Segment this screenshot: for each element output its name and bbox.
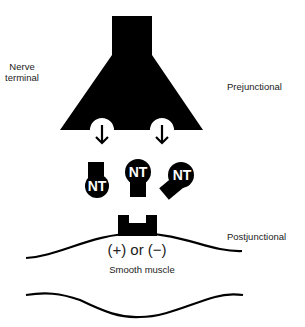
nerve-terminal	[60, 16, 203, 130]
nt-label: NT	[88, 178, 107, 194]
postjunctional-label: Postjunctional	[227, 231, 286, 242]
smooth-muscle-label: Smooth muscle	[109, 264, 174, 275]
smooth-muscle-membrane-lower	[26, 293, 243, 317]
release-arrow-right-icon	[156, 125, 168, 143]
release-arrow-left-icon	[96, 125, 108, 143]
effect-label: (+) or (−)	[107, 241, 166, 258]
nerve-terminal-label: Nerve	[9, 61, 34, 72]
neurotransmitter-1: NT	[85, 162, 109, 198]
neurotransmitter-2: NT	[125, 159, 151, 197]
nt-label: NT	[129, 164, 148, 180]
neurotransmission-diagram: NT NT NT Nerve terminal Prejunctional Po…	[0, 0, 305, 327]
nerve-terminal-label-line2: terminal	[5, 72, 39, 83]
neurotransmitter-3: NT	[159, 162, 194, 200]
nt-label: NT	[173, 167, 192, 183]
prejunctional-label: Prejunctional	[227, 81, 282, 92]
